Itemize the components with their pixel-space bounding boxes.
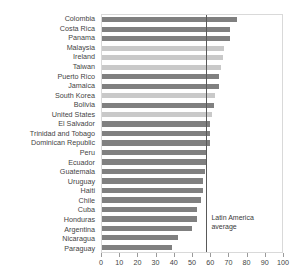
bar-haiti [102, 188, 203, 193]
category-label: Taiwan [0, 62, 98, 72]
category-label: Ireland [0, 52, 98, 62]
category-label: United States [0, 110, 98, 120]
x-axis-tick-label: 60 [206, 258, 214, 267]
bar-bolivia [102, 103, 214, 108]
x-axis-tick [156, 253, 157, 257]
bar-colombia [102, 17, 237, 22]
category-label: Ecuador [0, 157, 98, 167]
bar-argentina [102, 226, 192, 231]
x-axis-tick [210, 253, 211, 257]
category-label: Honduras [0, 215, 98, 225]
category-label: Guatemala [0, 167, 98, 177]
bar-row [102, 186, 282, 195]
bar-jamaica [102, 84, 219, 89]
x-axis-tick-label: 70 [224, 258, 232, 267]
average-annotation-line1: Latin America [211, 213, 253, 222]
category-label: Uruguay [0, 177, 98, 187]
category-label: Colombia [0, 14, 98, 24]
bar-row [102, 24, 282, 33]
category-label: Argentina [0, 224, 98, 234]
bar-row [102, 167, 282, 176]
bar-row [102, 15, 282, 24]
bar-row [102, 176, 282, 185]
category-label: Peru [0, 148, 98, 158]
category-label: Paraguay [0, 244, 98, 254]
category-label: Chile [0, 196, 98, 206]
bar-el-salvador [102, 121, 210, 126]
bar-row [102, 195, 282, 204]
x-axis-tick [265, 253, 266, 257]
bar-row [102, 233, 282, 242]
bar-nicaragua [102, 235, 178, 240]
bar-trinidad-and-tobago [102, 131, 210, 136]
bar-dominican-republic [102, 140, 210, 145]
x-axis-tick [101, 253, 102, 257]
x-axis-tick-label: 30 [152, 258, 160, 267]
bars-container [102, 15, 282, 252]
bar-row [102, 53, 282, 62]
average-annotation-label: Latin Americaaverage [211, 213, 253, 232]
x-axis-tick-label: 100 [277, 258, 289, 267]
category-label: Trinidad and Tobago [0, 129, 98, 139]
x-axis-tick [228, 253, 229, 257]
category-label: Bolivia [0, 100, 98, 110]
x-axis-tick-label: 40 [170, 258, 178, 267]
category-label: Haiti [0, 186, 98, 196]
plot-area: Latin Americaaverage [101, 14, 283, 253]
x-axis-tick-label: 10 [115, 258, 123, 267]
category-label: Malaysia [0, 43, 98, 53]
bar-south-korea [102, 93, 215, 98]
bar-row [102, 119, 282, 128]
bar-row [102, 224, 282, 233]
bar-row [102, 157, 282, 166]
bar-row [102, 205, 282, 214]
bar-ireland [102, 55, 223, 60]
bar-united-states [102, 112, 212, 117]
bar-row [102, 100, 282, 109]
category-axis-labels: ColombiaCosta RicaPanamaMalaysiaIrelandT… [0, 14, 98, 253]
bar-row [102, 214, 282, 223]
bar-peru [102, 150, 206, 155]
bar-paraguay [102, 245, 172, 250]
bar-row [102, 129, 282, 138]
category-label: Dominican Republic [0, 138, 98, 148]
x-axis-tick [174, 253, 175, 257]
x-axis-tick-label: 80 [243, 258, 251, 267]
x-axis-tick [192, 253, 193, 257]
bar-row [102, 148, 282, 157]
x-axis-tick [247, 253, 248, 257]
bar-puerto-rico [102, 74, 219, 79]
category-label: Nicaragua [0, 234, 98, 244]
bar-cuba [102, 207, 197, 212]
bar-panama [102, 36, 230, 41]
bar-chart: ColombiaCosta RicaPanamaMalaysiaIrelandT… [0, 0, 295, 280]
category-label: Puerto Rico [0, 71, 98, 81]
bar-guatemala [102, 169, 205, 174]
bar-row [102, 43, 282, 52]
x-axis-tick-label: 90 [261, 258, 269, 267]
bar-costa-rica [102, 27, 230, 32]
bar-honduras [102, 216, 197, 221]
bar-row [102, 72, 282, 81]
category-label: Cuba [0, 205, 98, 215]
category-label: Jamaica [0, 81, 98, 91]
category-label: South Korea [0, 91, 98, 101]
category-label: Costa Rica [0, 24, 98, 34]
bar-row [102, 81, 282, 90]
bar-row [102, 34, 282, 43]
x-axis-tick [137, 253, 138, 257]
x-axis-tick-label: 50 [188, 258, 196, 267]
bar-row [102, 138, 282, 147]
x-axis: 0102030405060708090100 [101, 253, 283, 277]
x-axis-tick [283, 253, 284, 257]
bar-chile [102, 197, 201, 202]
bar-row [102, 110, 282, 119]
bar-row [102, 91, 282, 100]
category-label: Panama [0, 33, 98, 43]
category-label: El Salvador [0, 119, 98, 129]
average-annotation-line2: average [211, 222, 253, 231]
x-axis-tick [119, 253, 120, 257]
bar-uruguay [102, 178, 203, 183]
bar-ecuador [102, 159, 206, 164]
x-axis-tick-label: 0 [99, 258, 103, 267]
